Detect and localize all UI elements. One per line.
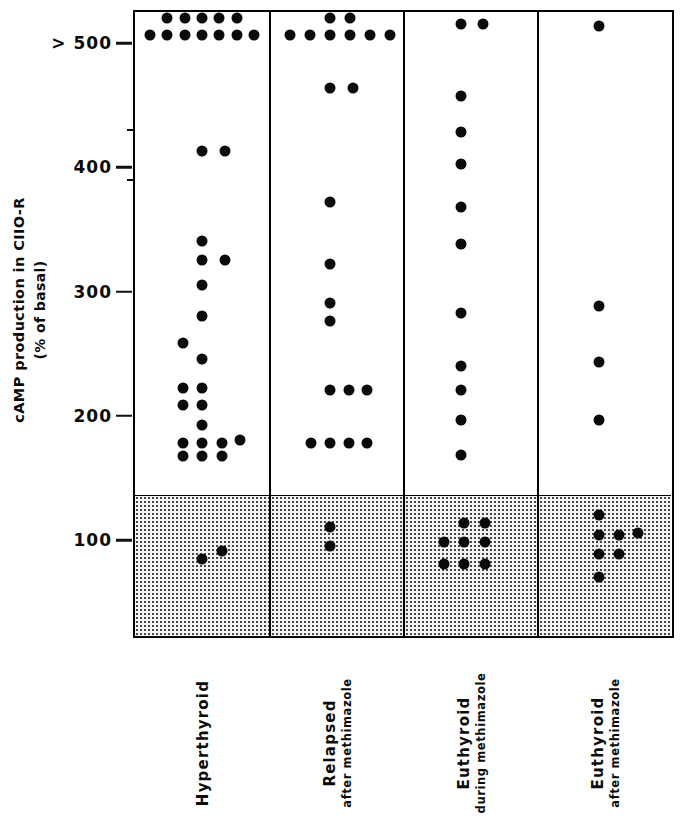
data-point bbox=[197, 236, 208, 247]
data-point bbox=[594, 509, 605, 520]
data-point bbox=[324, 437, 335, 448]
data-point bbox=[231, 30, 242, 41]
y-axis-label-line2: (% of basal) bbox=[32, 260, 48, 359]
y-tick-mark-500 bbox=[116, 42, 132, 45]
data-point bbox=[594, 571, 605, 582]
data-point bbox=[197, 400, 208, 411]
data-point bbox=[178, 451, 189, 462]
panel-4 bbox=[537, 12, 671, 636]
data-point bbox=[178, 382, 189, 393]
data-point bbox=[458, 518, 469, 529]
data-point bbox=[304, 30, 315, 41]
data-point bbox=[234, 435, 245, 446]
data-point bbox=[179, 12, 190, 23]
data-point bbox=[162, 30, 173, 41]
data-point bbox=[456, 360, 467, 371]
data-point bbox=[343, 437, 354, 448]
data-point bbox=[614, 529, 625, 540]
panel-1 bbox=[135, 12, 269, 636]
data-point bbox=[197, 279, 208, 290]
y-tick-label-300: 300 bbox=[20, 282, 112, 302]
data-point bbox=[324, 298, 335, 309]
data-point bbox=[217, 545, 228, 556]
data-point bbox=[438, 536, 449, 547]
data-point bbox=[306, 437, 317, 448]
y-axis-label-line1: cAMP production in CIIO-R bbox=[11, 197, 27, 423]
data-point bbox=[144, 30, 155, 41]
data-point bbox=[324, 315, 335, 326]
data-point bbox=[594, 529, 605, 540]
data-point bbox=[197, 12, 208, 23]
dot-plot-figure: cAMP production in CIIO-R (% of basal) >… bbox=[0, 0, 685, 829]
data-point bbox=[284, 30, 295, 41]
data-point bbox=[324, 83, 335, 94]
data-point bbox=[197, 354, 208, 365]
data-point bbox=[178, 400, 189, 411]
panel-2 bbox=[269, 12, 403, 636]
data-point bbox=[197, 451, 208, 462]
data-point bbox=[324, 522, 335, 533]
data-point bbox=[178, 437, 189, 448]
data-point bbox=[162, 12, 173, 23]
data-point bbox=[197, 310, 208, 321]
data-point bbox=[197, 554, 208, 565]
data-point bbox=[456, 126, 467, 137]
category-label-4: Euthyroidafter methimazole bbox=[520, 730, 685, 756]
data-point bbox=[219, 145, 230, 156]
y-tick-label-500: > 500 bbox=[20, 33, 112, 53]
data-point bbox=[594, 356, 605, 367]
data-point bbox=[231, 12, 242, 23]
category-label-sub: after methimazole bbox=[339, 678, 353, 807]
data-point bbox=[219, 254, 230, 265]
data-point bbox=[456, 90, 467, 101]
data-point bbox=[197, 145, 208, 156]
data-point bbox=[458, 559, 469, 570]
data-point bbox=[456, 308, 467, 319]
data-point bbox=[594, 549, 605, 560]
y-tick-label-100: 100 bbox=[20, 530, 112, 550]
data-point bbox=[324, 540, 335, 551]
data-point bbox=[438, 559, 449, 570]
data-point bbox=[456, 385, 467, 396]
data-point bbox=[345, 30, 356, 41]
data-point bbox=[362, 437, 373, 448]
data-point bbox=[324, 12, 335, 23]
data-point bbox=[343, 385, 354, 396]
data-point bbox=[249, 30, 260, 41]
data-point bbox=[456, 159, 467, 170]
normal-range-band-3 bbox=[405, 495, 537, 636]
category-label-sub: after methimazole bbox=[607, 678, 621, 807]
data-point bbox=[178, 338, 189, 349]
y-tick-label-200: 200 bbox=[20, 406, 112, 426]
data-point bbox=[217, 451, 228, 462]
category-label-main: Relapsed bbox=[320, 678, 338, 807]
data-point bbox=[594, 415, 605, 426]
data-point bbox=[385, 30, 396, 41]
data-point bbox=[456, 450, 467, 461]
y-tick-mark-300 bbox=[116, 290, 132, 293]
data-point bbox=[594, 21, 605, 32]
data-point bbox=[179, 30, 190, 41]
data-point bbox=[480, 518, 491, 529]
y-tick-mark-400 bbox=[116, 166, 132, 169]
data-point bbox=[456, 238, 467, 249]
data-point bbox=[214, 30, 225, 41]
data-point bbox=[456, 201, 467, 212]
data-point bbox=[633, 528, 644, 539]
y-tick-mark-200 bbox=[116, 415, 132, 418]
data-point bbox=[214, 12, 225, 23]
data-point bbox=[362, 385, 373, 396]
normal-range-band-4 bbox=[539, 495, 671, 636]
y-tick-mark-100 bbox=[116, 539, 132, 542]
category-label-main: Euthyroid bbox=[454, 673, 472, 814]
category-label-main: Euthyroid bbox=[588, 678, 606, 807]
data-point bbox=[197, 30, 208, 41]
data-point bbox=[347, 83, 358, 94]
data-point bbox=[197, 254, 208, 265]
data-point bbox=[324, 196, 335, 207]
data-point bbox=[477, 18, 488, 29]
data-point bbox=[365, 30, 376, 41]
data-point bbox=[197, 382, 208, 393]
data-point bbox=[614, 549, 625, 560]
data-point bbox=[324, 385, 335, 396]
